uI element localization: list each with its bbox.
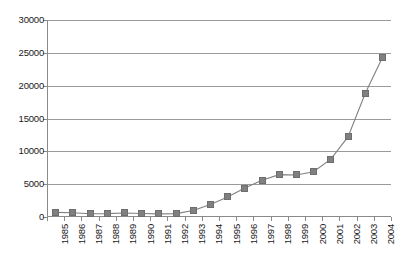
chart-container: 050001000015000200002500030000 198519861… xyxy=(0,0,403,261)
data-point-1997 xyxy=(259,177,266,184)
data-point-1990 xyxy=(138,210,145,217)
data-point-1992 xyxy=(173,210,180,217)
data-point-1988 xyxy=(104,210,111,217)
data-point-1996 xyxy=(241,185,248,192)
data-point-1993 xyxy=(190,207,197,214)
data-point-2001 xyxy=(327,156,334,163)
data-point-2003 xyxy=(362,90,369,97)
data-point-1991 xyxy=(155,210,162,217)
data-point-1999 xyxy=(293,171,300,178)
data-point-1985 xyxy=(52,209,59,216)
data-point-1989 xyxy=(121,209,128,216)
data-point-2002 xyxy=(345,133,352,140)
data-point-1998 xyxy=(276,171,283,178)
data-point-2000 xyxy=(310,168,317,175)
data-point-1995 xyxy=(224,193,231,200)
data-point-2004 xyxy=(379,54,386,61)
data-point-1994 xyxy=(207,201,214,208)
series-line-layer xyxy=(0,0,403,261)
data-point-1986 xyxy=(69,209,76,216)
data-point-1987 xyxy=(87,210,94,217)
series-line xyxy=(56,57,383,213)
